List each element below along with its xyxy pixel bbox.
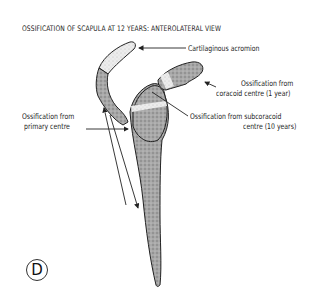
label-cartilaginous-acromion: Cartilaginous acromion bbox=[188, 44, 259, 54]
panel-letter-badge: D bbox=[26, 259, 48, 281]
coracoid-leader bbox=[205, 82, 216, 87]
panel-letter: D bbox=[31, 261, 43, 279]
cartilaginous-acromion-shape bbox=[99, 42, 135, 74]
label-coracoid-line2: coracoid centre (1 year) bbox=[216, 89, 290, 99]
label-coracoid-line1: Ossification from bbox=[241, 79, 293, 89]
label-subcoracoid-line1: Ossification from subcoracoid bbox=[190, 112, 282, 122]
label-primary-line2: primary centre bbox=[24, 122, 70, 132]
label-subcoracoid-line2: centre (10 years) bbox=[243, 122, 296, 132]
scapula-illustration bbox=[0, 0, 324, 305]
label-primary-line1: Ossification from bbox=[22, 112, 74, 122]
figure-title: OSSIFICATION OF SCAPULA AT 12 YEARS: ANT… bbox=[22, 24, 221, 33]
scapular-spine-shape bbox=[96, 68, 128, 125]
